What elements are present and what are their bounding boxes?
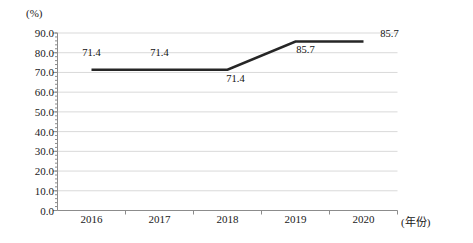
y-axis-tick-label: 90.0	[35, 27, 54, 39]
data-point-label: 85.7	[296, 44, 314, 55]
chart-canvas	[0, 0, 473, 243]
x-axis-tick-label: 2019	[285, 213, 307, 225]
line-chart: (%) 0.010.020.030.040.050.060.070.080.09…	[0, 0, 473, 243]
data-point-label: 71.4	[226, 73, 244, 84]
data-point-label: 71.4	[82, 47, 100, 58]
x-axis-name: (年份)	[401, 213, 430, 229]
y-axis-tick-label: 40.0	[35, 126, 54, 138]
data-point-label: 85.7	[380, 28, 398, 39]
data-point-label: 71.4	[150, 47, 168, 58]
y-axis-tick-label: 30.0	[35, 145, 54, 157]
y-axis-tick-label: 60.0	[35, 86, 54, 98]
x-axis-tick-label: 2016	[81, 213, 103, 225]
x-axis-tick-label: 2020	[353, 213, 375, 225]
y-axis-tick-labels: 0.010.020.030.040.050.060.070.080.090.0	[18, 0, 54, 243]
data-series-line	[92, 41, 364, 69]
x-axis-tick-label: 2017	[149, 213, 171, 225]
y-axis-tick-label: 70.0	[35, 66, 54, 78]
y-axis-tick-label: 20.0	[35, 165, 54, 177]
y-axis-tick-label: 80.0	[35, 47, 54, 59]
y-axis-tick-label: 10.0	[35, 185, 54, 197]
y-axis-tick-label: 0.0	[40, 205, 54, 217]
y-axis-tick-label: 50.0	[35, 106, 54, 118]
x-axis-tick-label: 2018	[217, 213, 239, 225]
gridlines-group	[58, 33, 398, 211]
